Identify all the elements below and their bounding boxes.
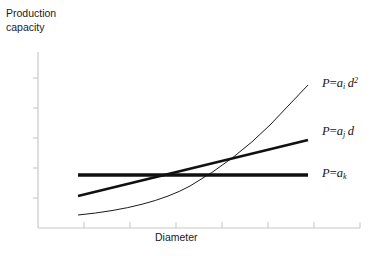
x-axis-label: Diameter <box>155 231 198 243</box>
series-label-constant-op: = <box>330 166 337 180</box>
series-label-linear-sub: j <box>343 130 345 139</box>
y-axis-ticks <box>33 78 38 198</box>
series-label-quadratic-op: = <box>330 76 337 90</box>
series-line-quadratic <box>78 85 308 215</box>
series-label-quadratic: P=ai d2 <box>322 76 358 91</box>
x-axis-ticks <box>84 222 360 228</box>
series-label-linear-op: = <box>330 124 337 138</box>
series-label-quadratic-lhs: P <box>322 76 330 90</box>
series-line-linear <box>78 140 308 196</box>
series-label-constant: P=ak <box>322 166 347 181</box>
series-label-linear-var: d <box>348 124 354 138</box>
series-label-constant-sub: k <box>343 172 347 181</box>
series-label-linear: P=aj d <box>322 124 354 139</box>
series-label-constant-lhs: P <box>322 166 330 180</box>
axes <box>38 52 360 228</box>
series-label-quadratic-sub: i <box>343 82 345 91</box>
chart-figure: Productioncapacity P=ai d2 <box>0 0 386 256</box>
series-label-linear-lhs: P <box>322 124 330 138</box>
series-label-quadratic-sup: 2 <box>354 76 358 85</box>
